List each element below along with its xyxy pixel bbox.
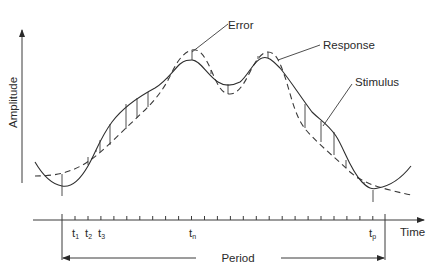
tick-label-tn: tn [189, 227, 196, 240]
period-indicator: Period [63, 252, 384, 264]
amplitude-axis-label: Amplitude [7, 77, 19, 128]
time-axis-ticks [75, 216, 373, 220]
error-label: Error [228, 19, 254, 31]
tick-label-t3: t3 [98, 227, 105, 240]
period-label: Period [221, 252, 254, 264]
tick-label-t2: t2 [85, 227, 92, 240]
tick-label-t1: t1 [72, 227, 79, 240]
error-leader-line [192, 24, 228, 52]
response-leader-line [278, 45, 320, 60]
stimulus-leader-line [323, 84, 352, 126]
tick-label-tp: tp [369, 227, 376, 241]
stimulus-response-diagram: Amplitude Error Response [0, 0, 438, 276]
annotation-error: Error [192, 19, 254, 52]
time-axis-label: Time [400, 226, 425, 238]
response-label: Response [323, 39, 375, 51]
annotation-response: Response [278, 39, 375, 60]
stimulus-label: Stimulus [355, 76, 399, 88]
amplitude-axis: Amplitude [7, 30, 22, 183]
annotation-stimulus: Stimulus [323, 76, 399, 126]
